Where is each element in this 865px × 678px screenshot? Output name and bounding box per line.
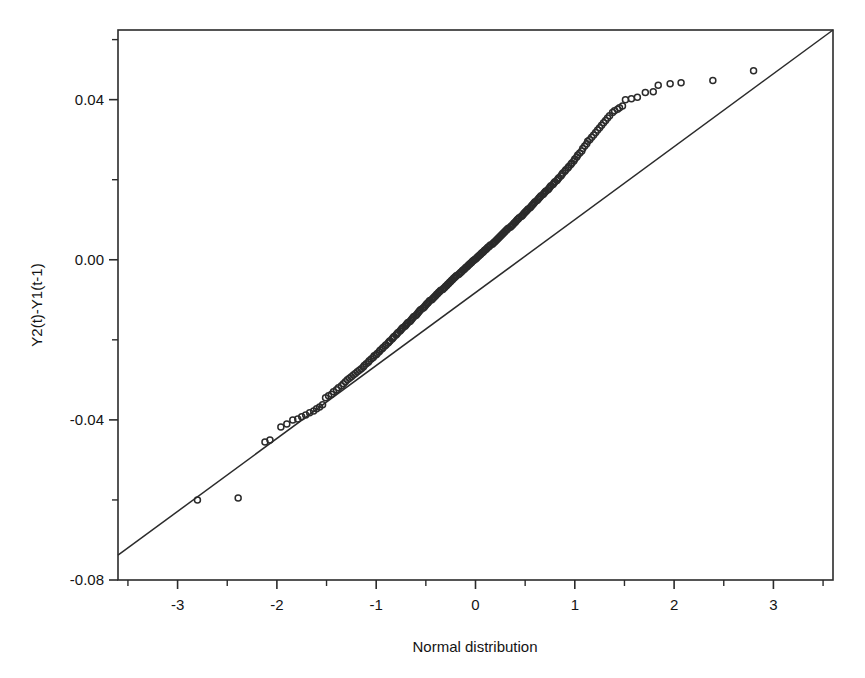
y-axis-title: Y2(t)-Y1(t-1) (28, 263, 45, 346)
y-tick-label: 0.04 (75, 91, 104, 108)
x-tick-label: 0 (471, 596, 479, 613)
x-tick-label: -2 (270, 596, 283, 613)
y-axis-tick-labels: -0.08-0.040.000.04 (70, 91, 104, 588)
x-tick-label: 1 (571, 596, 579, 613)
x-tick-label: -3 (171, 596, 184, 613)
x-tick-label: 2 (670, 596, 678, 613)
x-tick-label: -1 (370, 596, 383, 613)
x-axis-major-ticks (178, 580, 774, 589)
x-axis-title: Normal distribution (412, 638, 537, 655)
plot-frame (118, 30, 833, 580)
y-tick-label: -0.08 (70, 571, 104, 588)
qq-plot-figure: -3-2-10123 -0.08-0.040.000.04 Normal dis… (0, 0, 865, 678)
x-tick-label: 3 (769, 596, 777, 613)
y-tick-label: 0.00 (75, 251, 104, 268)
x-axis-tick-labels: -3-2-10123 (171, 596, 778, 613)
plot-canvas: -3-2-10123 -0.08-0.040.000.04 Normal dis… (0, 0, 865, 678)
y-axis-minor-ticks (112, 40, 118, 500)
y-tick-label: -0.04 (70, 411, 104, 428)
